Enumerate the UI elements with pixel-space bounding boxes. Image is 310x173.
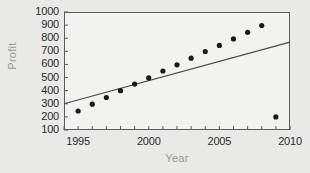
x-tick-label: 1995 (56, 135, 100, 147)
y-tick-label: 900 (19, 18, 59, 30)
y-tick-label: 400 (19, 84, 59, 96)
y-tick-label: 300 (19, 97, 59, 109)
data-points (76, 23, 279, 120)
y-tick-label: 200 (19, 110, 59, 122)
y-tick-label: 500 (19, 71, 59, 83)
y-tick-label: 1000 (19, 5, 59, 17)
x-tick-label: 2000 (127, 135, 171, 147)
x-tick-label: 2010 (268, 135, 310, 147)
y-tick-label: 100 (19, 123, 59, 135)
y-tick-label: 800 (19, 31, 59, 43)
x-axis-ticks (64, 126, 290, 130)
y-tick-label: 700 (19, 44, 59, 56)
x-tick-label: 2005 (197, 135, 241, 147)
scatter-chart: Profit Year 1002003004005006007008009001… (0, 0, 310, 173)
trend-line (64, 42, 290, 104)
y-axis-ticks (64, 12, 68, 130)
y-tick-label: 600 (19, 57, 59, 69)
